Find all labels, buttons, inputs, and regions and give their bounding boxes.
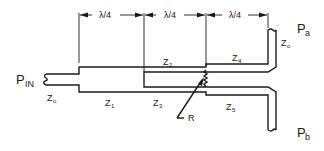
label-z0-output: Z o	[281, 38, 291, 49]
label-z0-input: Z o	[47, 93, 57, 104]
label-z5: Z 5	[226, 102, 236, 113]
port-b: P b	[297, 125, 310, 142]
output-branch-a	[206, 29, 276, 72]
svg-text:3: 3	[159, 103, 163, 109]
input-line-z0	[44, 67, 144, 92]
port-in: P IN	[16, 72, 34, 89]
label-z2: Z 2	[163, 57, 173, 68]
svg-text:1: 1	[111, 103, 115, 109]
svg-text:5: 5	[232, 107, 236, 113]
power-divider-diagram: λ/4 λ/4 λ/4 P IN P a	[0, 0, 324, 151]
svg-text:4: 4	[238, 58, 242, 64]
label-z1: Z 1	[105, 98, 115, 109]
output-branch-b	[206, 87, 276, 131]
dimension-label-2: λ/4	[164, 10, 176, 20]
svg-text:a: a	[305, 28, 310, 38]
svg-text:o: o	[287, 43, 291, 49]
isolation-resistor	[177, 70, 207, 118]
svg-text:P: P	[16, 72, 25, 87]
svg-text:o: o	[53, 98, 57, 104]
port-a: P a	[297, 21, 310, 38]
label-z3: Z 3	[153, 98, 163, 109]
label-resistor: R	[188, 113, 195, 123]
dimension-label-3: λ/4	[229, 10, 241, 20]
dimension-label-1: λ/4	[99, 10, 111, 20]
svg-text:b: b	[305, 132, 310, 142]
svg-text:IN: IN	[25, 79, 34, 89]
label-z4: Z 4	[232, 53, 242, 64]
